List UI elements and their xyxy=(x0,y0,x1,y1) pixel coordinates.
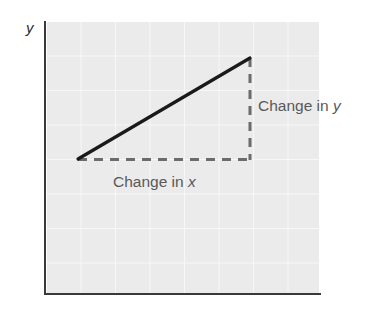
slope-line xyxy=(78,58,250,159)
change-in-x-label: Change in x xyxy=(113,174,196,190)
change-in-y-label: Change in y xyxy=(258,98,341,114)
slope-diagram-figure: y Change in x Change in y xyxy=(0,0,385,311)
change-in-x-label-text: Change in xyxy=(113,173,188,190)
diagram-overlay xyxy=(0,0,385,311)
change-in-y-label-text: Change in xyxy=(258,97,333,114)
change-in-y-label-variable: y xyxy=(333,97,341,114)
change-in-x-label-variable: x xyxy=(188,173,196,190)
